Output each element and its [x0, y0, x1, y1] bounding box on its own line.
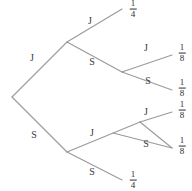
fraction-denominator: 8: [179, 54, 186, 63]
branch-label-level2-upper-lower: S: [89, 57, 95, 67]
outcome-probability-3: 1 8: [179, 78, 186, 99]
outcome-probability-4: 1 8: [179, 100, 186, 121]
outcome-probability-5: 1 8: [179, 136, 186, 157]
branch-root-to-lower: [12, 97, 67, 152]
branch-upper-to-outcome1: [67, 9, 122, 42]
fraction-numerator: 1: [179, 100, 186, 109]
fraction-numerator: 1: [130, 170, 137, 179]
branch-label-level3-upper-lower: S: [145, 76, 151, 86]
branch-root-to-upper: [12, 42, 67, 97]
outcome-probability-2: 1 8: [179, 43, 186, 64]
fraction-numerator: 1: [179, 78, 186, 87]
fraction-denominator: 4: [130, 10, 137, 19]
fraction-numerator: 1: [130, 0, 137, 8]
fraction-denominator: 8: [179, 89, 186, 98]
fraction-denominator: 4: [130, 181, 137, 190]
branch-label-level1-lower: S: [31, 130, 37, 140]
branch-label-level1-upper: J: [30, 53, 34, 63]
fraction-numerator: 1: [179, 43, 186, 52]
branch-label-level3-upper-upper: J: [144, 43, 148, 53]
branch-label-level3-lower-upper: J: [144, 107, 148, 117]
outcome-probability-1: 1 4: [130, 0, 137, 19]
branch-label-level2-upper-upper: J: [88, 16, 92, 26]
fraction-denominator: 8: [179, 111, 186, 120]
tree-branches: [0, 0, 192, 191]
outcome-probability-6: 1 4: [130, 170, 137, 191]
fraction-denominator: 8: [179, 147, 186, 156]
branch-mid-upper-to-outcome2: [122, 55, 172, 72]
branch-label-level3-lower-lower: S: [143, 139, 149, 149]
fraction-numerator: 1: [179, 136, 186, 145]
probability-tree-diagram: J S J S J S J S J S 1 4 1 8 1 8 1 8 1 8 …: [0, 0, 192, 191]
branch-label-level2-lower-upper: J: [90, 128, 94, 138]
branch-label-level2-lower-lower: S: [89, 167, 95, 177]
